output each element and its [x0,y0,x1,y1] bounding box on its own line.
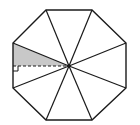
right-angle-marker [13,66,18,71]
center-point [67,64,71,68]
octagon-diagram [0,0,140,125]
